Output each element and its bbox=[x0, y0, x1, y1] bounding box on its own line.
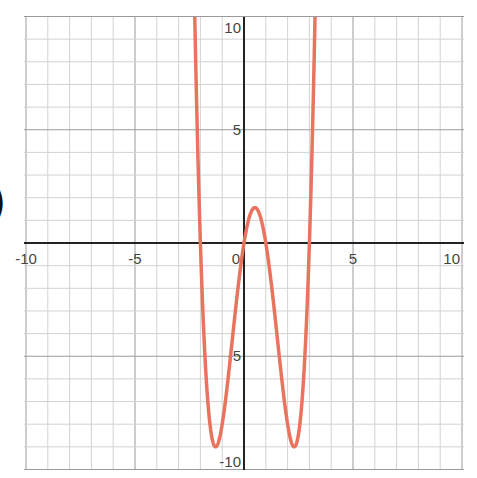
y-tick-label: -10 bbox=[219, 453, 241, 470]
x-tick-label: -5 bbox=[128, 250, 141, 267]
y-tick-label: 10 bbox=[224, 19, 241, 36]
function-curve bbox=[190, 0, 321, 447]
function-graph: -10-50510105-5-10 bbox=[0, 0, 477, 478]
x-tick-label: 0 bbox=[232, 250, 240, 267]
x-tick-label: -10 bbox=[15, 250, 37, 267]
y-tick-label: 5 bbox=[233, 121, 241, 138]
x-tick-label: 5 bbox=[349, 250, 357, 267]
x-tick-label: 10 bbox=[443, 250, 460, 267]
